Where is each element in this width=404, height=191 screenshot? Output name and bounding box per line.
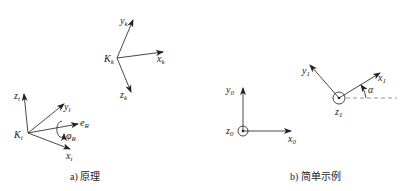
frame-1: y1 x1 z1 α: [301, 65, 397, 119]
label-x1: x1: [377, 72, 386, 85]
label-y0: y0: [225, 84, 234, 97]
label-yi: yi: [63, 101, 70, 114]
label-y1: y1: [301, 65, 310, 78]
label-phiR: φR: [66, 130, 77, 143]
label-x0: x0: [287, 133, 296, 146]
caption-b: b) 简单示例: [290, 170, 341, 183]
axis-yi: [28, 104, 64, 133]
axis-x1: [339, 73, 380, 98]
frame-ki: zi yi eR xi φR Ki: [13, 90, 89, 163]
label-yk: yk: [119, 15, 128, 28]
label-z0: z0: [225, 125, 234, 138]
axis-zk: [117, 58, 131, 92]
angle-arc-icon: [361, 85, 366, 98]
label-xi: xi: [65, 150, 72, 163]
axis-zi: [24, 94, 28, 133]
label-zk: zk: [119, 89, 128, 102]
caption-a: a) 原理: [70, 171, 100, 183]
label-z1: z1: [334, 106, 342, 119]
coordinate-frames-diagram: zi yi eR xi φR Ki yk xk zk Kk y0 x0 z0 y…: [0, 0, 404, 191]
label-eR: eR: [80, 117, 89, 130]
label-alpha: α: [368, 84, 374, 95]
axis-y1: [310, 65, 339, 98]
label-Ki: Ki: [13, 129, 23, 142]
label-Kk: Kk: [103, 53, 115, 66]
rotation-arrow-icon: [57, 121, 64, 137]
label-xk: xk: [156, 53, 165, 66]
frame-kk: yk xk zk Kk: [103, 15, 165, 102]
frame-0: y0 x0 z0: [225, 84, 296, 146]
label-zi: zi: [13, 90, 20, 103]
